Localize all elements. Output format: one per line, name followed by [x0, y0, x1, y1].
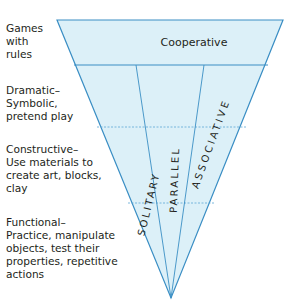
stage-parallel: PARALLEL [168, 147, 181, 214]
inverted-triangle-diagram: Cooperative SOLITARY PARALLEL ASSOCIATIV… [0, 0, 292, 306]
stage-cooperative: Cooperative [161, 36, 228, 49]
